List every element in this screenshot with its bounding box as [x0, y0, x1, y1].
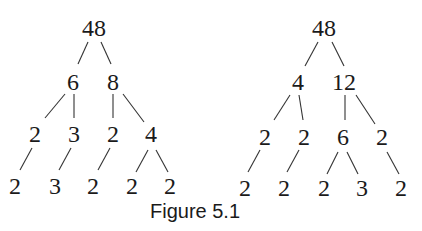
tree-node: 6	[67, 69, 79, 95]
tree-node: 2	[29, 121, 41, 147]
tree-node: 2	[298, 124, 310, 150]
left-factor-tree: 4868232423222	[9, 15, 176, 199]
tree-edge	[248, 150, 260, 172]
tree-edge	[78, 42, 88, 64]
tree-edge	[136, 150, 148, 172]
tree-node: 48	[82, 15, 106, 41]
tree-node: 2	[259, 124, 271, 150]
tree-node: 3	[49, 173, 61, 199]
figure-caption: Figure 5.1	[150, 200, 240, 223]
tree-edge	[327, 152, 338, 174]
tree-edge	[347, 152, 358, 174]
tree-node: 2	[395, 175, 407, 201]
tree-edge	[59, 148, 71, 170]
factor-trees-diagram: 4868232423222 48412226222232	[0, 0, 422, 231]
tree-node: 8	[107, 69, 119, 95]
tree-edge	[387, 152, 399, 174]
tree-node: 2	[87, 173, 99, 199]
tree-node: 2	[107, 121, 119, 147]
tree-node: 12	[332, 69, 356, 95]
tree-edge	[305, 42, 318, 66]
tree-edge	[20, 148, 32, 170]
tree-node: 3	[356, 175, 368, 201]
tree-node: 6	[337, 124, 349, 150]
tree-node: 48	[312, 15, 336, 41]
tree-edge	[98, 148, 110, 170]
tree-edge	[332, 42, 344, 66]
tree-edge	[274, 95, 290, 120]
tree-node: 2	[126, 173, 138, 199]
tree-edge	[45, 94, 65, 118]
tree-node: 3	[68, 121, 80, 147]
tree-edge	[123, 94, 144, 122]
tree-node: 4	[292, 69, 304, 95]
tree-edge	[287, 150, 299, 172]
tree-edge	[299, 95, 303, 120]
tree-node: 2	[239, 175, 251, 201]
tree-node: 2	[278, 175, 290, 201]
tree-node: 2	[318, 175, 330, 201]
tree-node: 4	[145, 121, 157, 147]
tree-edge	[356, 95, 375, 124]
right-factor-tree: 48412226222232	[239, 15, 407, 201]
tree-node: 2	[164, 173, 176, 199]
tree-edge	[101, 42, 111, 64]
tree-node: 2	[376, 124, 388, 150]
tree-node: 2	[9, 173, 21, 199]
tree-edge	[156, 150, 168, 172]
